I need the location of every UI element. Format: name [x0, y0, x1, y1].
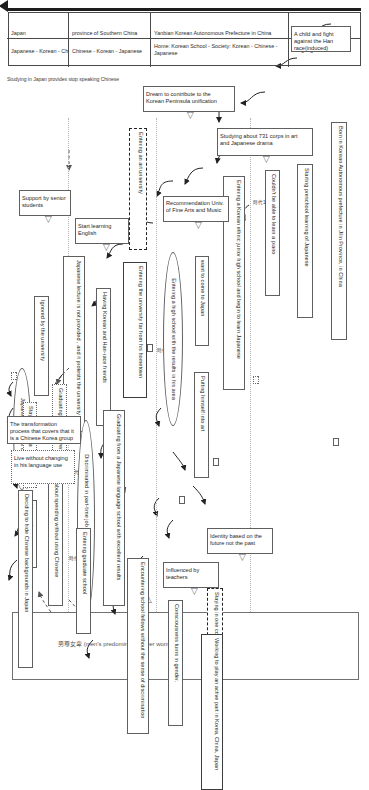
chevron-right-icon-5: ▷	[44, 216, 53, 223]
factor-senior-support[interactable]: Support by senior students	[19, 190, 71, 216]
chevron-right-icon-1: ▷	[262, 156, 271, 163]
node-hide-chinese[interactable]: Deciding to hide Chinese backgrounds in …	[18, 490, 33, 668]
node-school-fellows[interactable]: Encountering school fellows without the …	[127, 558, 149, 734]
node-active-part[interactable]: Working to play an active part in Korea,…	[201, 634, 223, 790]
factor-731-corps[interactable]: Studying about 731 corps in art and Japa…	[217, 128, 313, 156]
chevron-right-icon-3: ▷	[194, 222, 203, 229]
node-graduate-school[interactable]: Entering graduate school	[76, 528, 91, 634]
node-gender-consciousness[interactable]: Consciousness turns in gender.	[168, 600, 183, 726]
chevron-right-icon-2: ▷	[186, 112, 195, 119]
chevron-right-icon-4: ▷	[102, 244, 111, 251]
factor-english[interactable]: Start learning English	[75, 218, 129, 244]
factor-han-race[interactable]: A child and fight against the Han race(i…	[291, 26, 351, 52]
chevron-right-icon-7: ▷	[238, 554, 247, 561]
factor-unification-dream[interactable]: Dream to contribute to the Korean Penins…	[143, 86, 235, 112]
factor-recommendation[interactable]: Recommendation Univ. of Fine Arts and Mu…	[163, 196, 229, 222]
factor-teachers[interactable]: Influenced by teachers	[163, 562, 219, 588]
factor-language-use[interactable]: Live without changing in his language us…	[11, 450, 75, 484]
factor-identity-future[interactable]: Identity based on the future not the pas…	[207, 528, 273, 554]
chevron-right-icon-6: ▷	[190, 588, 199, 595]
factor-transformation[interactable]: The transformation process that covers t…	[7, 416, 81, 444]
